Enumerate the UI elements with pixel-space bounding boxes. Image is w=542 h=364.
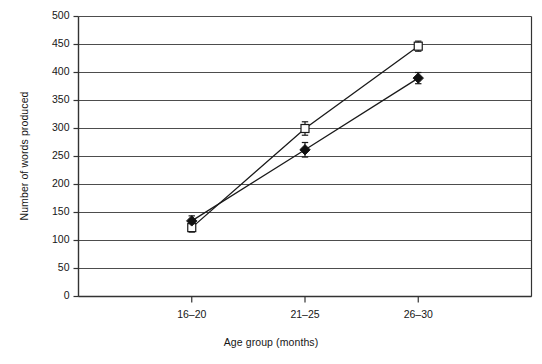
x-tick-label: 16–20 bbox=[147, 308, 237, 320]
y-tick-label: 250 bbox=[20, 149, 70, 161]
y-tick-marks-group bbox=[74, 17, 79, 297]
x-tick-label: 21–25 bbox=[260, 308, 350, 320]
x-tick-marks-group bbox=[192, 297, 419, 303]
series-line bbox=[192, 46, 419, 227]
data-markers-group bbox=[187, 42, 424, 231]
y-tick-label: 300 bbox=[20, 121, 70, 133]
y-tick-label: 500 bbox=[20, 9, 70, 21]
marker-open-square bbox=[301, 125, 309, 133]
marker-filled-diamond bbox=[300, 145, 310, 155]
marker-filled-diamond bbox=[413, 73, 423, 83]
y-tick-label: 50 bbox=[20, 261, 70, 273]
x-tick-label: 26–30 bbox=[373, 308, 463, 320]
chart-figure: Number of words produced Age group (mont… bbox=[0, 0, 542, 364]
y-tick-label: 400 bbox=[20, 65, 70, 77]
y-tick-label: 350 bbox=[20, 93, 70, 105]
y-tick-label: 150 bbox=[20, 205, 70, 217]
marker-open-square bbox=[414, 42, 422, 50]
series-lines-group bbox=[192, 46, 419, 227]
y-tick-label: 450 bbox=[20, 37, 70, 49]
y-tick-label: 100 bbox=[20, 233, 70, 245]
y-tick-label: 200 bbox=[20, 177, 70, 189]
y-tick-label: 0 bbox=[20, 289, 70, 301]
